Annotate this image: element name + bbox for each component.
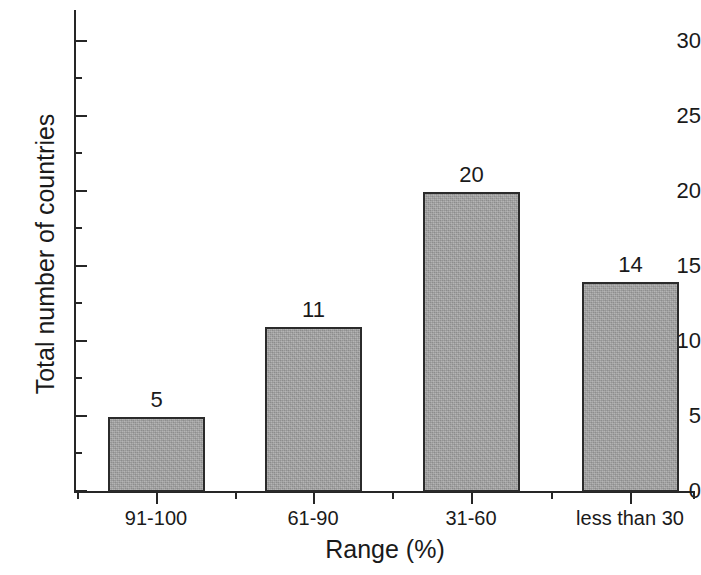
x-tick-label: less than 30	[550, 506, 701, 530]
bar-value-label: 5	[108, 388, 205, 412]
y-tick-label: 30	[639, 30, 701, 52]
x-tick-label: 61-90	[233, 506, 393, 530]
y-tick-minor	[76, 302, 82, 304]
bar-value-label: 20	[423, 163, 520, 187]
y-tick-major	[76, 340, 87, 342]
y-tick-minor	[76, 152, 82, 154]
y-tick-major	[76, 490, 87, 492]
y-tick-major	[76, 265, 87, 267]
y-axis-title: Total number of countries	[31, 34, 59, 474]
x-tick-label: 31-60	[391, 506, 551, 530]
x-tick-minor	[77, 493, 79, 499]
x-tick-major	[156, 493, 158, 504]
y-tick-label: 20	[639, 180, 701, 202]
x-tick-major	[471, 493, 473, 504]
y-tick-minor	[76, 77, 82, 79]
x-axis-title: Range (%)	[75, 535, 695, 563]
bar	[423, 192, 520, 492]
x-tick-minor	[235, 493, 237, 499]
y-tick-major	[76, 40, 87, 42]
y-tick-major	[76, 415, 87, 417]
x-tick-minor	[392, 493, 394, 499]
y-tick-major	[76, 190, 87, 192]
y-tick-minor	[76, 377, 82, 379]
bar-value-label: 11	[265, 298, 362, 322]
bar	[582, 282, 679, 492]
bar	[265, 327, 362, 492]
y-axis-line	[74, 10, 76, 493]
x-tick-label: 91-100	[76, 506, 236, 530]
y-tick-label: 25	[639, 105, 701, 127]
x-tick-minor	[551, 493, 553, 499]
y-tick-minor	[76, 452, 82, 454]
y-tick-major	[76, 115, 87, 117]
bar	[108, 417, 205, 492]
bar-chart: 0 5 10 15 20 25 30 5 11 20 14 91-100 61-…	[0, 0, 701, 575]
x-tick-major	[313, 493, 315, 504]
x-tick-minor	[693, 493, 695, 499]
y-tick-minor	[76, 227, 82, 229]
bar-value-label: 14	[582, 253, 679, 277]
x-tick-major	[630, 493, 632, 504]
